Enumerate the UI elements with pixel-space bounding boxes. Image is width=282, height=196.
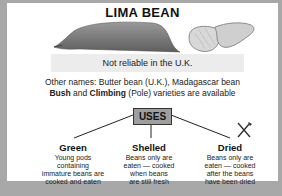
desc-line: have been dried [189,178,271,186]
use-green: Green Young pods containing immature bea… [32,142,114,186]
desc-line: cooked and eaten [32,178,114,186]
use-dried: Dried Beans only are eaten — cooked afte… [189,142,271,186]
use-heading: Shelled [108,142,190,153]
desc-line: when beans [108,170,190,178]
use-heading: Dried [189,142,271,153]
desc-line: immature beans are [32,170,114,178]
desc-line: containing [32,162,114,170]
use-description: Beans only are eaten — cooked when beans… [108,154,190,186]
desc-line: after the beans [189,170,271,178]
desc-line: eaten — cooked [108,162,190,170]
desc-line: Young pods [32,154,114,162]
uses-label: USES [133,108,172,125]
use-heading: Green [32,142,114,153]
lima-bean-card: LIMA BEAN Not reliable in the U.K. Other… [7,3,278,181]
desc-line: Beans only are [189,154,271,162]
desc-line: are still fresh [108,178,190,186]
use-description: Young pods containing immature beans are… [32,154,114,186]
knife-fork-icon [235,121,253,139]
desc-line: Beans only are [108,154,190,162]
use-description: Beans only are eaten — cooked after the … [189,154,271,186]
desc-line: eaten — cooked [189,162,271,170]
use-shelled: Shelled Beans only are eaten — cooked wh… [108,142,190,186]
